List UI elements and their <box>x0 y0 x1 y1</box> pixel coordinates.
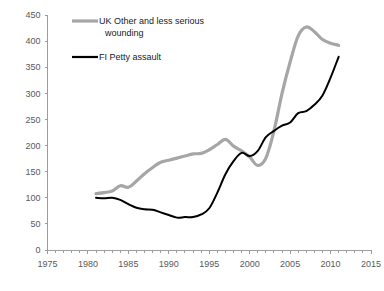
x-tick-label: 1980 <box>78 259 98 269</box>
y-tick-label: 400 <box>25 36 40 46</box>
x-tick-label: 2010 <box>321 259 341 269</box>
y-tick-label: 250 <box>25 115 40 125</box>
x-tick-label: 2000 <box>240 259 260 269</box>
y-tick-label: 100 <box>25 193 40 203</box>
y-tick-label: 450 <box>25 10 40 20</box>
y-tick-label: 150 <box>25 167 40 177</box>
y-tick-label: 0 <box>35 245 40 255</box>
y-tick-label: 200 <box>25 141 40 151</box>
y-tick-label: 300 <box>25 89 40 99</box>
legend-label-0-line2: wounding <box>104 28 144 38</box>
chart-container: 050100150200250300350400450 197519801985… <box>0 0 384 291</box>
chart-legend: UK Other and less seriouswoundingFI Pett… <box>72 16 205 62</box>
line-chart: 050100150200250300350400450 197519801985… <box>0 0 384 291</box>
legend-label-0: UK Other and less serious <box>99 16 205 26</box>
x-tick-label: 1975 <box>37 259 57 269</box>
x-tick-label: 1990 <box>159 259 179 269</box>
y-axis-ticks: 050100150200250300350400450 <box>25 10 47 255</box>
legend-label-1: FI Petty assault <box>99 52 162 62</box>
y-tick-label: 350 <box>25 62 40 72</box>
y-tick-label: 50 <box>30 219 40 229</box>
x-axis-ticks: 197519801985199019952000200520102015 <box>37 250 381 269</box>
x-tick-label: 2005 <box>280 259 300 269</box>
x-tick-label: 1995 <box>199 259 219 269</box>
x-tick-label: 1985 <box>118 259 138 269</box>
x-tick-label: 2015 <box>361 259 381 269</box>
series-line-fi-petty-assault <box>96 57 339 218</box>
